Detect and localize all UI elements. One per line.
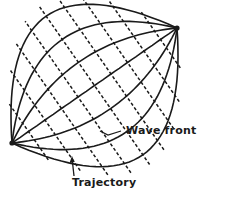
target-focal-point: [174, 25, 179, 30]
trajectories: [11, 4, 178, 166]
wave-diagram: [0, 0, 228, 198]
trajectory-label: Trajectory: [72, 176, 136, 189]
wave-front-leader-line: [100, 131, 121, 135]
wave-front-label: Wave front: [126, 124, 196, 137]
source-focal-point: [9, 140, 14, 145]
wave-front-curve: [81, 0, 174, 129]
